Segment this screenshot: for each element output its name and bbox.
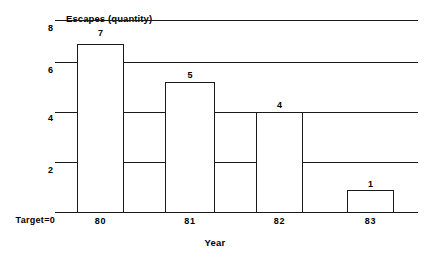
bar-83: [347, 190, 394, 213]
x-axis-tick-80: 80: [77, 217, 124, 226]
bar-80: [77, 44, 124, 213]
bar-82: [256, 112, 303, 213]
x-axis-title: Year: [0, 237, 430, 248]
bar-chart: Escapes (quantity) 8 6 4 2 Target=0 7 5 …: [0, 0, 430, 263]
bar-value-83: 1: [347, 180, 394, 189]
bar-value-80: 7: [77, 29, 124, 38]
x-axis-tick-81: 81: [165, 217, 215, 226]
bar-value-81: 5: [165, 71, 215, 80]
y-axis-tick-8: 8: [39, 24, 53, 33]
y-axis-tick-target-zero: Target=0: [0, 216, 55, 225]
y-axis-tick-4: 4: [39, 114, 53, 123]
x-axis-tick-83: 83: [347, 217, 394, 226]
bar-81: [165, 82, 215, 213]
x-axis-tick-82: 82: [256, 217, 303, 226]
bar-value-82: 4: [256, 101, 303, 110]
gridline-8: [55, 20, 418, 21]
y-axis-tick-6: 6: [39, 66, 53, 75]
y-axis-tick-2: 2: [39, 166, 53, 175]
